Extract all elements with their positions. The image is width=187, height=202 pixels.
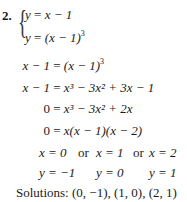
step-4-lhs: 0 bbox=[0, 123, 50, 138]
eq2-exponent: 3 bbox=[81, 29, 85, 38]
step-3-lhs: 0 bbox=[0, 101, 50, 116]
step-1-lhs: x − 1 bbox=[0, 58, 50, 73]
y-solution-2: y = 1 bbox=[149, 165, 177, 180]
x-solution-1: x = 1 bbox=[96, 145, 124, 160]
eq1-lhs: y bbox=[25, 7, 31, 22]
solutions-label: Solutions: bbox=[16, 185, 69, 200]
step-3: 0 = x³ − 3x² + 2x bbox=[0, 101, 133, 116]
or-1: or bbox=[78, 145, 89, 160]
step-1-exponent: 3 bbox=[100, 57, 104, 66]
solutions-line: Solutions: (0, −1), (1, 0), (2, 1) bbox=[16, 185, 177, 200]
system-equation-2: y = (x − 1)3 bbox=[25, 30, 85, 45]
step-4-rhs: x(x − 1)(x − 2) bbox=[64, 123, 142, 138]
x-solution-0: x = 0 bbox=[39, 145, 67, 160]
step-2: x − 1 = x³ − 3x² + 3x − 1 bbox=[0, 80, 154, 95]
y-solution-1: y = 0 bbox=[96, 165, 124, 180]
or-2: or bbox=[133, 145, 144, 160]
solutions-value: (0, −1), (1, 0), (2, 1) bbox=[72, 185, 177, 200]
y-solution-0: y = −1 bbox=[39, 165, 75, 180]
problem-number: 2. bbox=[2, 8, 12, 23]
step-1-rhs: (x − 1) bbox=[64, 58, 100, 73]
step-3-rhs: x³ − 3x² + 2x bbox=[64, 101, 133, 116]
eq2-rhs: (x − 1) bbox=[45, 30, 81, 45]
step-1: x − 1 = (x − 1)3 bbox=[0, 58, 104, 73]
system-equation-1: y = x − 1 bbox=[25, 7, 72, 22]
step-2-lhs: x − 1 bbox=[0, 80, 50, 95]
step-2-rhs: x³ − 3x² + 3x − 1 bbox=[64, 80, 154, 95]
eq1-rhs: x − 1 bbox=[45, 7, 73, 22]
eq2-lhs: y bbox=[25, 30, 31, 45]
x-solution-2: x = 2 bbox=[149, 145, 177, 160]
step-4: 0 = x(x − 1)(x − 2) bbox=[0, 123, 142, 138]
